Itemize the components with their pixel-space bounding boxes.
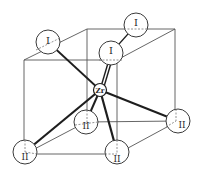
atom-label: II bbox=[178, 120, 186, 130]
atom-label: Zr bbox=[96, 86, 105, 95]
iodine-II-atoms: II II II II bbox=[13, 109, 190, 164]
atom-I-3: I bbox=[99, 41, 123, 65]
cube-diagram-svg: I I I Zr II bbox=[0, 0, 199, 178]
atom-II-3: II bbox=[105, 140, 129, 164]
iodine-I-atoms: I I I bbox=[36, 13, 148, 65]
atom-II-2: II bbox=[74, 110, 98, 134]
atom-II-4: II bbox=[166, 109, 190, 133]
atom-label: I bbox=[134, 17, 138, 28]
atom-II-1: II bbox=[13, 140, 37, 164]
atom-label: II bbox=[21, 152, 29, 162]
zr-coordination-diagram: I I I Zr II bbox=[0, 0, 199, 178]
atom-I-1: I bbox=[36, 30, 60, 54]
atom-label: I bbox=[109, 45, 113, 56]
atom-I-2: I bbox=[124, 13, 148, 37]
atom-zr: Zr bbox=[94, 84, 107, 97]
atom-label: I bbox=[46, 35, 50, 46]
atom-label: II bbox=[113, 154, 121, 164]
atom-label: II bbox=[82, 121, 90, 131]
